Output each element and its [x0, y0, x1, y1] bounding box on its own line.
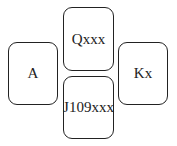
south-cards: J109xxx	[63, 99, 114, 116]
east-hand: Kx	[118, 42, 168, 105]
south-hand: J109xxx	[63, 76, 114, 139]
west-hand: A	[8, 42, 58, 105]
east-cards: Kx	[134, 65, 152, 82]
west-cards: A	[28, 65, 39, 82]
north-hand: Qxxx	[63, 7, 114, 71]
north-cards: Qxxx	[72, 31, 105, 48]
